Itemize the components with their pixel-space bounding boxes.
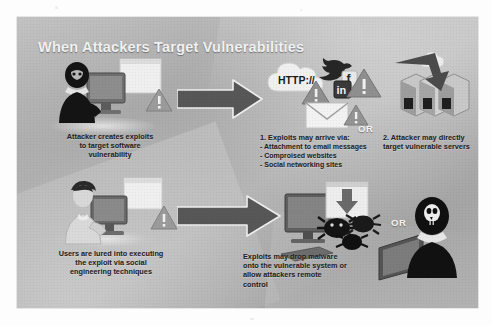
row2-left-caption: Users are lured into executing the explo…	[47, 249, 175, 277]
malware-bug-icon	[336, 234, 368, 250]
caption-heading: 1. Exploits may arrive via:	[260, 133, 385, 142]
caption-bullet: - Attachment to email messages	[260, 142, 385, 151]
attacker-figure-group	[47, 53, 177, 131]
caption-line: Users are lured into executing	[47, 249, 175, 258]
infographic-slide: When Attackers Target Vulnerabilities	[17, 17, 478, 308]
caption-bullet: - Comproised websites	[260, 151, 385, 160]
scan-speck	[300, 9, 302, 11]
scanned-page: When Attackers Target Vulnerabilities	[0, 0, 492, 326]
cloud-http-label: HTTP://	[278, 74, 315, 86]
caption-line: allow attackers remote	[243, 270, 383, 279]
row1-middle-caption: 1. Exploits may arrive via: - Attachment…	[260, 133, 385, 169]
svg-text:in: in	[337, 84, 347, 96]
caption-line: vulnerability	[55, 150, 165, 159]
caption-line: target vulnerable servers	[383, 142, 478, 151]
row2-or-label: OR	[391, 217, 406, 228]
row2-middle-caption: Exploits may drop malware onto the vulne…	[243, 252, 383, 289]
document-icon	[120, 59, 161, 93]
row1-right-caption: 2. Attacker may directly target vulnerab…	[383, 133, 478, 151]
scan-speck	[250, 318, 254, 320]
caption-line: Attacker creates exploits	[55, 132, 165, 141]
internet-cluster: HTTP:// f in	[260, 53, 400, 137]
caption-line: 2. Attacker may directly	[383, 133, 478, 142]
caption-line: control	[243, 280, 383, 289]
caption-line: engineering techniques	[47, 267, 175, 276]
caption-line: Exploits may drop malware	[243, 252, 383, 261]
flow-arrow-1	[177, 79, 263, 119]
caption-line: to target software	[55, 141, 165, 150]
user-figure-group	[49, 174, 181, 252]
scan-speck	[55, 6, 58, 9]
download-arrow-icon	[326, 182, 368, 218]
document-icon	[124, 178, 162, 209]
caption-line: onto the vulnerable system or	[243, 261, 383, 270]
row1-left-caption: Attacker creates exploits to target soft…	[55, 132, 165, 160]
flow-arrow-2	[177, 195, 281, 237]
caption-bullet: - Social networking sites	[260, 160, 385, 169]
envelope-icon	[306, 103, 348, 128]
caption-line: the exploit via social	[47, 258, 175, 267]
server-rack-group	[393, 51, 478, 123]
malware-bug-icon	[345, 215, 381, 234]
